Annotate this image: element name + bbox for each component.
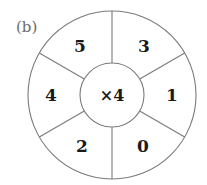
figure-label: (b) — [16, 18, 37, 36]
spoke-lower-right — [140, 111, 185, 137]
center-operation: ×4 — [100, 86, 125, 105]
segment-top-left: 5 — [74, 36, 86, 56]
segment-left: 4 — [45, 85, 57, 105]
segment-top-right: 3 — [138, 36, 150, 56]
segment-right: 1 — [166, 85, 178, 105]
segment-bottom-right: 0 — [137, 136, 149, 156]
multiplication-wheel-diagram: (b) ×4 5 3 1 0 2 4 — [0, 0, 207, 185]
spoke-lower-left — [39, 111, 84, 137]
spoke-upper-right — [140, 53, 185, 79]
segment-bottom-left: 2 — [76, 136, 88, 156]
spoke-upper-left — [39, 53, 84, 79]
